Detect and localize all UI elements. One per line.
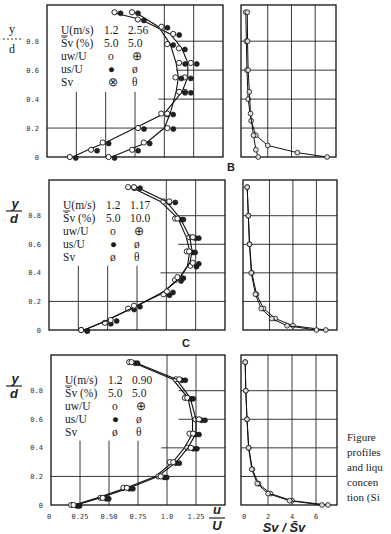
panel-label-c: C (182, 337, 190, 349)
concentration-marker (325, 155, 330, 160)
data-marker-open (190, 260, 195, 265)
data-marker-open (130, 147, 135, 152)
legend-symbol-1: o (110, 225, 116, 237)
data-marker-filled (165, 25, 170, 30)
x-axis-label-concentration: Sv / S̄v (263, 520, 306, 534)
concentration-marker (245, 185, 250, 190)
data-marker-open (175, 216, 180, 221)
x-axis-label-numerator: u (213, 502, 221, 517)
legend-symbol-2: ⊕ (132, 50, 142, 62)
data-marker-open (196, 417, 201, 422)
data-marker-open (131, 185, 136, 190)
data-marker-filled (203, 418, 208, 423)
concentration-marker (247, 242, 252, 247)
data-marker-filled (181, 217, 186, 222)
legend-symbol-1: ⊗ (108, 76, 118, 88)
y-axis-label-numerator: y (10, 196, 19, 211)
data-marker-filled (112, 156, 117, 161)
data-marker-filled (191, 396, 196, 401)
data-marker-open (175, 275, 180, 280)
data-marker-filled (77, 504, 82, 509)
data-marker-filled (164, 475, 169, 480)
legend-velocity-header: U(m/s) (65, 374, 98, 387)
data-marker-open (100, 140, 105, 145)
data-marker-open (164, 289, 169, 294)
concentration-marker (259, 306, 264, 311)
data-marker-open (108, 317, 113, 322)
data-marker-filled (173, 200, 178, 205)
figure-canvas: 0.80.60.40.20U(m/s)1.22.56S̄v (%)5.05.0u… (0, 0, 391, 534)
legend-concentration-value-1: 5.0 (108, 387, 123, 399)
legend-row-label: Sv (65, 426, 77, 438)
panel-label-b: B (227, 161, 235, 173)
legend-concentration-header: S̄v (%) (65, 387, 97, 400)
data-marker-open (171, 460, 176, 465)
caption-line: tion (Si (347, 490, 391, 505)
data-marker-filled (196, 261, 201, 266)
x-tick-label: 1.25 (188, 513, 205, 521)
y-axis-label-denominator: d (9, 42, 15, 56)
data-marker-open (165, 111, 170, 116)
legend-symbol-1: o (112, 400, 118, 412)
data-marker-open (141, 140, 146, 145)
caption-line: concen (347, 475, 391, 490)
data-marker-open (173, 75, 178, 80)
y-axis-label-numerator: y (10, 371, 19, 386)
concentration-marker (253, 147, 258, 152)
data-marker-open (129, 360, 134, 365)
concentration-marker (255, 481, 260, 486)
caption-line: Figure (347, 430, 391, 445)
data-marker-open (190, 235, 195, 240)
concentration-marker (266, 491, 271, 496)
data-marker-open (185, 395, 190, 400)
concentration-marker (248, 111, 253, 116)
data-marker-filled (138, 304, 143, 309)
data-marker-open (126, 185, 131, 190)
concentration-marker (295, 150, 300, 155)
legend-symbol-1: ø (110, 251, 116, 263)
data-marker-filled (193, 250, 198, 255)
concentration-marker (323, 328, 328, 333)
legend-concentration-value-2: 5.0 (128, 37, 143, 49)
concentration-marker (326, 503, 331, 508)
legend-symbol-2: θ (134, 251, 140, 263)
data-marker-open (131, 303, 136, 308)
concentration-marker (243, 388, 248, 393)
data-marker-open (67, 154, 72, 159)
y-tick-label: 0.8 (28, 212, 41, 220)
data-marker-open (88, 147, 93, 152)
data-marker-open (176, 46, 181, 51)
data-marker-filled (106, 141, 111, 146)
legend-velocity-value-2: 2.56 (128, 24, 148, 36)
x-tick-label: 0 (242, 513, 246, 521)
legend-row-label: Sv (61, 76, 73, 88)
concentration-marker (256, 155, 261, 160)
data-marker-open (165, 125, 170, 130)
legend-concentration-value-2: 5.0 (132, 387, 147, 399)
legend-symbol-2: ø (132, 63, 138, 75)
concentration-marker (291, 323, 296, 328)
data-marker-open (71, 502, 76, 507)
legend-velocity-value-1: 1.2 (106, 199, 121, 211)
data-marker-filled (183, 61, 188, 66)
data-marker-filled (194, 61, 199, 66)
concentration-marker (251, 133, 256, 138)
legend-symbol-1: ● (108, 63, 115, 75)
concentration-marker (247, 89, 252, 94)
legend-velocity-value-2: 0.90 (132, 374, 152, 386)
data-marker-filled (171, 127, 176, 132)
data-marker-filled (135, 361, 140, 366)
y-tick-label: 0 (39, 502, 43, 510)
y-tick-label: 0.2 (28, 298, 41, 306)
y-tick-label: 0.4 (26, 96, 39, 104)
legend-symbol-2: ⊕ (134, 225, 144, 237)
data-marker-open (158, 474, 163, 479)
legend-concentration-value-2: 10.0 (130, 212, 150, 224)
data-marker-open (188, 445, 193, 450)
data-marker-filled (130, 486, 135, 491)
data-marker-filled (177, 32, 182, 37)
legend-row-label: us/U (61, 63, 83, 75)
legend-symbol-1: ● (110, 238, 117, 250)
legend-row-label: Sv (63, 251, 75, 263)
legend-concentration-header: S̄v (%) (61, 37, 93, 50)
